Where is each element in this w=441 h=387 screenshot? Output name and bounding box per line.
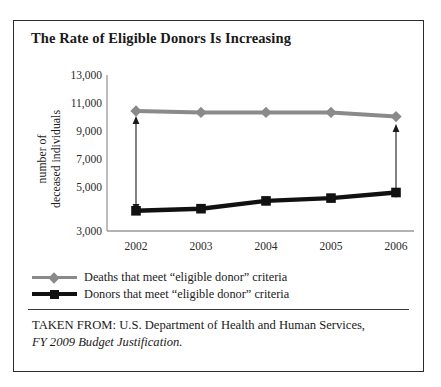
y-axis-title: number of deceased individuals [35,110,63,208]
x-axis-tick-labels: 2002 2003 2004 2005 2006 [125,240,408,252]
data-point [195,107,206,118]
data-point [391,188,401,198]
gap-arrow-2002 [133,116,140,212]
chart-legend: Deaths that meet “eligible donor” criter… [32,269,407,303]
legend-label-donors: Donors that meet “eligible donor” criter… [84,287,289,301]
y-tick-label: 7,000 [76,153,102,166]
legend-swatch-black-square-icon [32,288,77,300]
data-point [260,107,271,118]
y-axis-tick-labels: 13,000 11,000 9,000 7,000 5,000 3,000 [70,69,102,238]
x-tick-label: 2003 [190,240,213,252]
data-point [196,204,206,214]
y-axis-title-line2: deceased individuals [49,110,63,208]
x-tick-label: 2002 [125,240,148,252]
arrow-head-up [133,116,140,124]
source-attribution: TAKEN FROM: U.S. Department of Health an… [32,317,412,350]
data-point [326,193,336,203]
y-tick-label: 5,000 [76,181,102,194]
y-tick-label: 13,000 [70,69,102,82]
gap-arrow-2006 [393,124,400,198]
figure-frame: The Rate of Eligible Donors Is Increasin… [13,20,424,372]
legend-item-donors: Donors that meet “eligible donor” criter… [32,286,407,302]
y-tick-label: 3,000 [76,225,102,238]
source-divider [28,309,409,310]
series-donors [131,188,401,216]
legend-item-deaths: Deaths that meet “eligible donor” criter… [32,269,407,285]
legend-label-deaths: Deaths that meet “eligible donor” criter… [84,270,287,284]
arrow-head-up [393,124,400,132]
legend-swatch-gray-diamond-icon [32,271,77,283]
line-chart-svg: 13,000 11,000 9,000 7,000 5,000 3,000 nu… [14,61,425,276]
data-point [261,196,271,206]
data-point [390,111,401,122]
data-point [130,105,141,116]
source-line-1: TAKEN FROM: U.S. Department of Health an… [32,317,412,334]
x-tick-label: 2004 [255,240,278,252]
x-tick-label: 2005 [320,240,343,252]
data-point [325,107,336,118]
y-axis-title-line1: number of [35,135,49,184]
y-tick-label: 11,000 [71,97,102,110]
y-tick-label: 9,000 [76,125,102,138]
data-point [131,206,141,216]
chart-title: The Rate of Eligible Donors Is Increasin… [31,30,291,47]
x-tick-label: 2006 [385,240,408,252]
series-deaths [130,105,401,122]
chart-plot-area: 13,000 11,000 9,000 7,000 5,000 3,000 nu… [14,61,425,276]
source-line-2: FY 2009 Budget Justification. [32,334,412,351]
